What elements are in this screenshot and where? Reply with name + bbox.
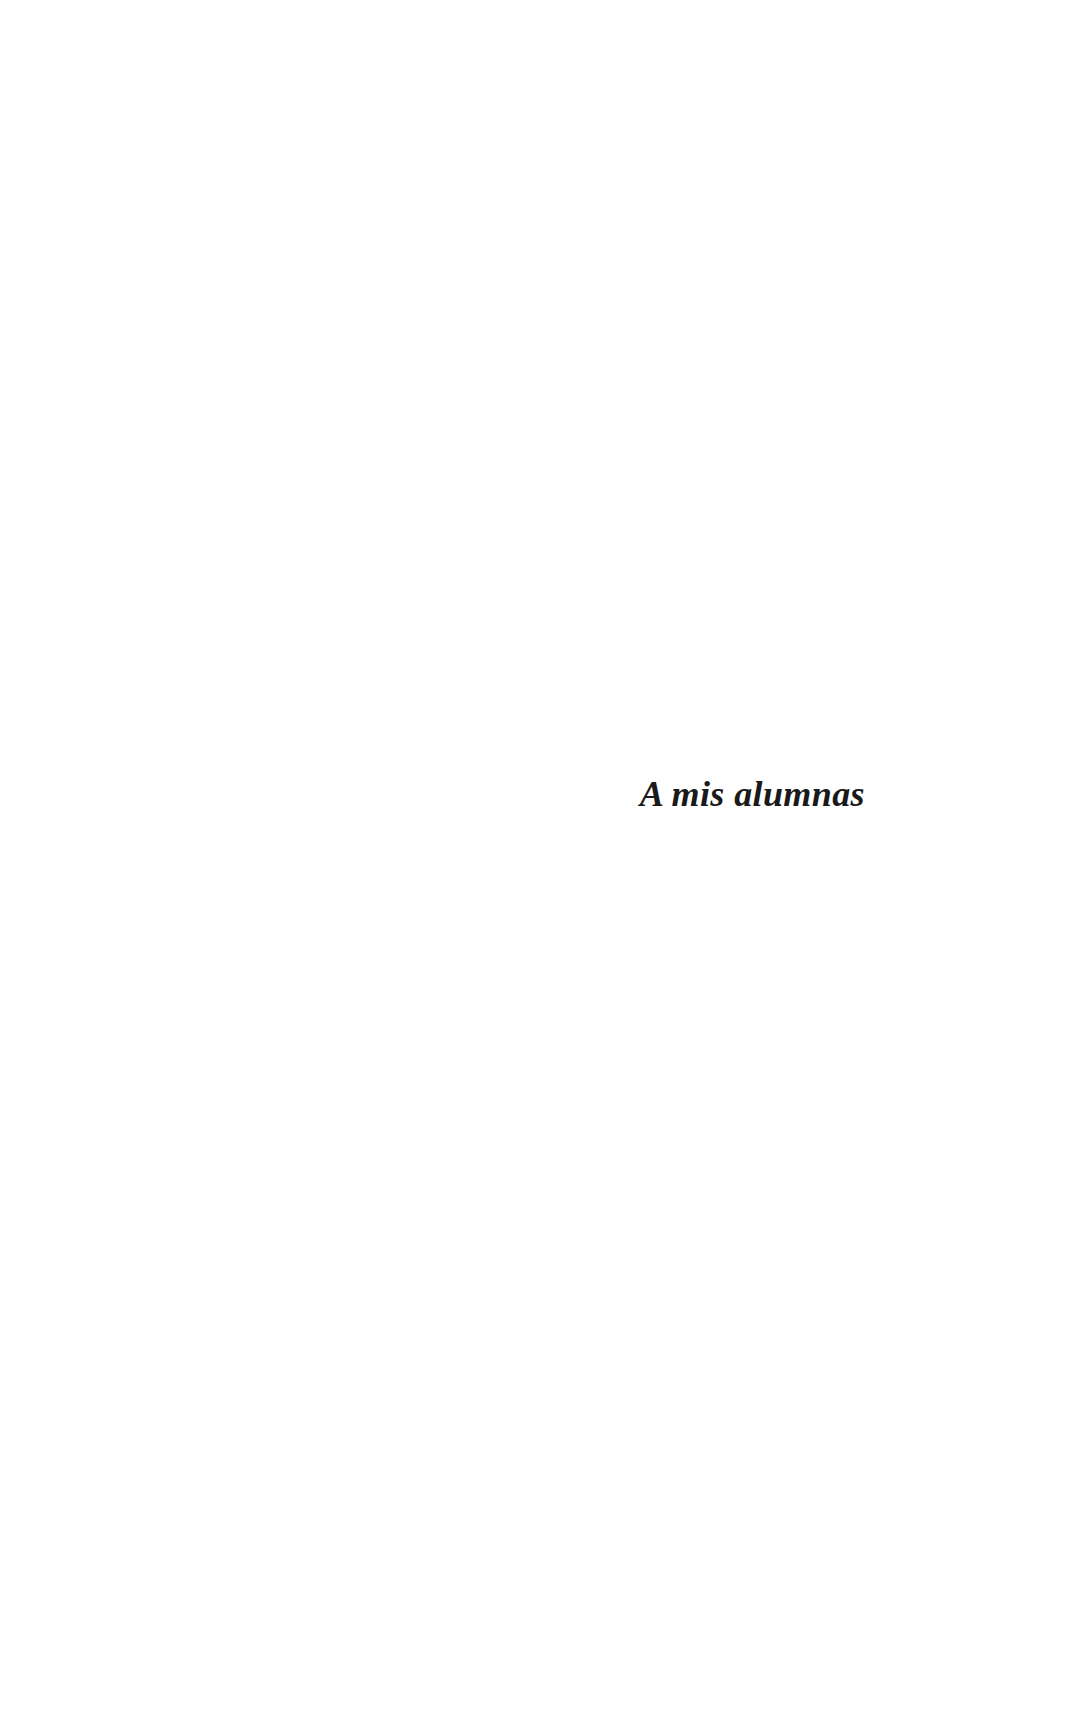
dedication-block: A mis alumnas	[0, 772, 865, 816]
dedication-page: A mis alumnas	[0, 0, 1069, 1726]
dedication-text: A mis alumnas	[640, 772, 865, 816]
